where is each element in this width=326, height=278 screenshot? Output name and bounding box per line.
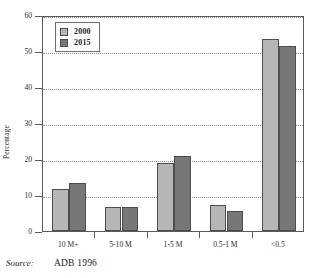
y-tick-50 [35, 52, 42, 53]
bar-2000-0.5-1 M [210, 205, 227, 231]
y-tick-30 [35, 124, 42, 125]
x-tick-separator-2 [199, 232, 200, 238]
y-tick-label-10: 10 [8, 192, 32, 200]
source-label: Source: [6, 258, 54, 268]
y-tick-60 [35, 16, 42, 17]
legend-label-2000: 2000 [74, 27, 91, 36]
y-tick-40 [35, 88, 42, 89]
y-tick-10 [35, 196, 42, 197]
y-tick-label-40: 40 [8, 84, 32, 92]
legend-item-2015: 2015 [60, 37, 91, 48]
source-caption: Source: ADB 1996 [6, 258, 97, 268]
legend-item-2000: 2000 [60, 26, 91, 37]
x-axis-label-0.5-1 M: 0.5-1 M [195, 240, 255, 249]
bar-chart: Percentage 010203040506010 M+5-10 M1-5 M… [0, 6, 326, 246]
bar-2015-<0.5 [279, 46, 296, 231]
y-tick-label-60: 60 [8, 12, 32, 20]
y-axis-title: Percentage [2, 102, 16, 182]
figure: Percentage 010203040506010 M+5-10 M1-5 M… [0, 0, 326, 278]
bar-2000-<0.5 [262, 39, 279, 231]
y-tick-20 [35, 160, 42, 161]
bar-2015-0.5-1 M [227, 211, 244, 231]
legend-swatch-2015 [60, 39, 68, 47]
source-value: ADB 1996 [54, 258, 97, 268]
bar-2000-10 M+ [52, 189, 69, 231]
x-axis-label-5-10 M: 5-10 M [91, 240, 151, 249]
x-axis-label-10 M+: 10 M+ [38, 240, 98, 249]
y-tick-0 [35, 232, 42, 233]
x-tick-separator-3 [252, 232, 253, 238]
chart-legend: 2000 2015 [55, 22, 100, 52]
gridline-60 [43, 17, 303, 18]
legend-label-2015: 2015 [74, 38, 91, 47]
x-tick-separator-0 [94, 232, 95, 238]
bar-2015-10 M+ [69, 183, 86, 231]
x-axis-label-1-5 M: 1-5 M [143, 240, 203, 249]
y-tick-label-20: 20 [8, 156, 32, 164]
y-tick-label-50: 50 [8, 48, 32, 56]
legend-swatch-2000 [60, 28, 68, 36]
x-tick-separator-1 [147, 232, 148, 238]
bar-2000-1-5 M [157, 163, 174, 231]
bar-2015-1-5 M [174, 156, 191, 231]
bar-2015-5-10 M [122, 207, 139, 231]
y-tick-label-30: 30 [8, 120, 32, 128]
y-tick-label-0: 0 [8, 228, 32, 236]
bar-2000-5-10 M [105, 207, 122, 231]
x-axis-label-<0.5: <0.5 [248, 240, 308, 249]
